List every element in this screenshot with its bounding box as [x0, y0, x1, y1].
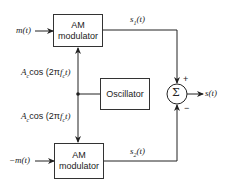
top-carrier-label: Accos (2πfct)	[21, 67, 71, 79]
top-am-modulator: AM modulator	[53, 14, 103, 47]
bottom-modulator-line2: modulator	[59, 161, 99, 172]
oscillator-label: Oscillator	[106, 89, 144, 100]
s1-wire	[103, 30, 177, 83]
oscillator-block: Oscillator	[100, 78, 150, 110]
bottom-carrier-label: Accos (2πfct)	[21, 111, 71, 123]
bottom-am-modulator: AM modulator	[54, 143, 104, 179]
minus-sign: −	[184, 103, 189, 113]
bottom-input-label: −m(t)	[9, 155, 30, 165]
top-input-label: m(t)	[16, 25, 31, 35]
output-label: s(t)	[205, 88, 217, 98]
bottom-modulator-line1: AM	[72, 150, 86, 161]
summer-symbol: Σ	[172, 86, 180, 99]
s1-label: s1(t)	[130, 14, 145, 26]
junction-dot	[76, 92, 80, 96]
top-modulator-line1: AM	[71, 20, 85, 31]
plus-sign: +	[183, 74, 188, 84]
s2-label: s2(t)	[130, 146, 145, 158]
top-modulator-line2: modulator	[58, 31, 98, 42]
